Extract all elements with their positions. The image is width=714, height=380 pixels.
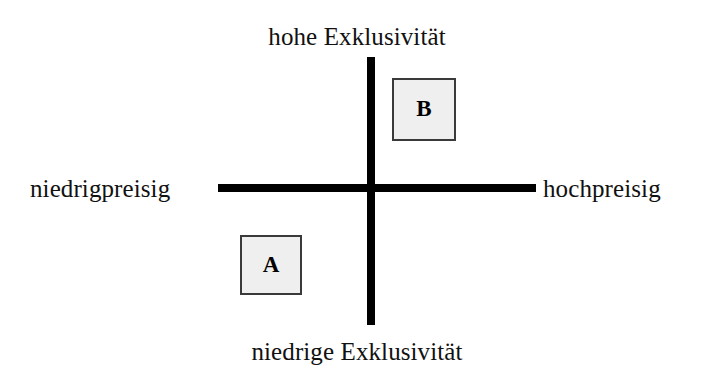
axis-label-right: hochpreisig — [543, 176, 661, 201]
axis-label-top: hohe Exklusivität — [0, 24, 714, 49]
brand-marker-b-label: B — [416, 97, 431, 120]
axis-label-left: niedrigpreisig — [30, 176, 170, 201]
brand-marker-b: B — [392, 78, 456, 141]
positioning-matrix-diagram: hohe Exklusivität niedrige Exklusivität … — [0, 0, 714, 380]
axis-label-bottom: niedrige Exklusivität — [0, 339, 714, 364]
brand-marker-a-label: A — [263, 253, 280, 276]
brand-marker-a: A — [240, 235, 302, 295]
horizontal-axis-line — [218, 184, 536, 192]
